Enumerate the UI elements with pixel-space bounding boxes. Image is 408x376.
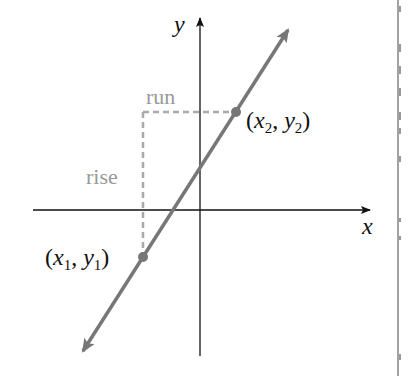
slope-line-lower [83,257,143,351]
y-axis-label: y [172,11,185,37]
run-label: run [146,84,175,109]
point-1-label: (x1, y1) [45,244,109,273]
slope-line [143,30,288,257]
slope-diagram: y x run rise (x2, y2) (x1, y1) [0,0,408,376]
point-2-label: (x2, y2) [246,107,310,136]
point-2 [231,107,241,117]
x-axis-label: x [361,213,373,239]
point-1 [138,252,148,262]
rise-label: rise [86,164,118,189]
